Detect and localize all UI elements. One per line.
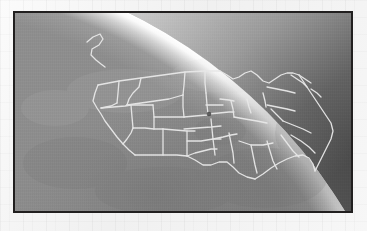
location-marker-dot <box>207 112 212 117</box>
earth-photo-inner <box>15 13 351 211</box>
earth-photo-frame: Earth limb from orbit with United States… <box>13 11 353 213</box>
earth-limb-scene <box>15 13 351 211</box>
page-canvas: Earth limb from orbit with United States… <box>0 0 367 231</box>
